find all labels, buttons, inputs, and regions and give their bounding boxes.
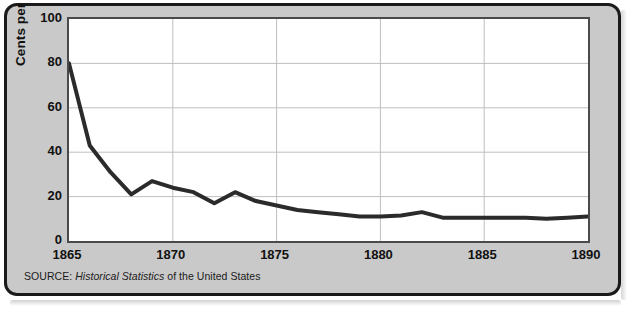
x-tick-label-1875: 1875 xyxy=(235,248,315,262)
y-tick-label-20: 20 xyxy=(2,189,62,202)
horizontal-gridlines xyxy=(69,63,588,196)
y-tick-label-60: 60 xyxy=(2,100,62,113)
y-tick-label-40: 40 xyxy=(2,144,62,157)
y-tick-label-100: 100 xyxy=(2,11,62,24)
chart-figure: Cents per pound 020406080100 18651870187… xyxy=(0,0,633,313)
x-tick-label-1870: 1870 xyxy=(131,248,211,262)
source-note: SOURCE: Historical Statistics of the Uni… xyxy=(24,270,261,282)
source-italic-title: Historical Statistics xyxy=(75,270,164,282)
source-prefix: SOURCE: xyxy=(24,270,72,282)
x-tick-label-1890: 1890 xyxy=(546,248,626,262)
y-axis-tick-labels: 020406080100 xyxy=(0,0,62,313)
data-series-group xyxy=(69,63,588,218)
y-tick-label-0: 0 xyxy=(2,233,62,246)
x-tick-label-1880: 1880 xyxy=(338,248,418,262)
x-tick-label-1865: 1865 xyxy=(27,248,107,262)
data-line-1 xyxy=(69,63,588,218)
panel-shadow-bottom xyxy=(10,300,621,306)
plot-area xyxy=(67,17,590,243)
vertical-gridlines xyxy=(173,19,484,241)
y-tick-label-80: 80 xyxy=(2,55,62,68)
source-suffix: of the United States xyxy=(167,270,260,282)
chart-canvas xyxy=(69,19,588,241)
x-tick-label-1885: 1885 xyxy=(442,248,522,262)
